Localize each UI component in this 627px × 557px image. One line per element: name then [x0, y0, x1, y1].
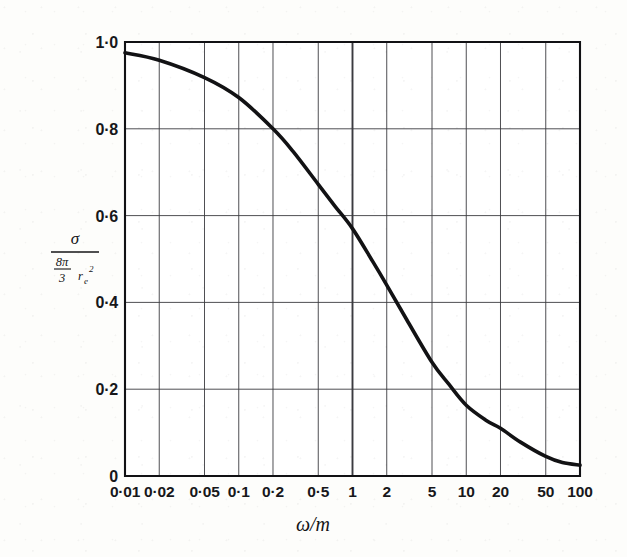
figure-canvas: 0·010·020·050·10·20·5125102050100 00·20·… [0, 0, 627, 557]
y-tick-labels: 00·20·40·60·81·0 [95, 34, 118, 485]
y-axis-denominator-numerator: 8π [56, 255, 69, 269]
x-tick-label: 10 [458, 483, 475, 500]
x-tick-label: 0·5 [307, 483, 329, 500]
y-axis-title: σ 8π 3 r e 2 [51, 229, 99, 286]
x-tick-label: 100 [567, 483, 592, 500]
x-tick-label: 0·1 [228, 483, 250, 500]
y-tick-label: 0·8 [95, 121, 118, 138]
y-tick-label: 0·4 [95, 294, 118, 311]
x-tick-label: 20 [492, 483, 509, 500]
y-tick-label: 0·2 [95, 381, 118, 398]
x-tick-label: 5 [428, 483, 437, 500]
cross-section-chart: 0·010·020·050·10·20·5125102050100 00·20·… [0, 0, 627, 557]
x-axis-title: ω/m [296, 513, 330, 535]
y-tick-label: 0 [109, 468, 118, 485]
x-tick-label: 50 [537, 483, 554, 500]
y-axis-electron-radius-symbol: r [78, 269, 83, 283]
y-axis-electron-radius-subscript: e [84, 276, 88, 286]
y-tick-label: 0·6 [95, 208, 118, 225]
x-tick-labels: 0·010·020·050·10·20·5125102050100 [110, 483, 593, 500]
x-tick-label: 0·05 [189, 483, 220, 500]
y-axis-numerator: σ [71, 229, 80, 248]
x-tick-label: 1 [348, 483, 357, 500]
y-axis-denominator-denominator: 3 [58, 271, 65, 285]
y-tick-label: 1·0 [95, 34, 118, 51]
x-tick-label: 0·01 [110, 483, 141, 500]
x-tick-label: 0·2 [262, 483, 284, 500]
x-tick-label: 0·02 [144, 483, 174, 500]
y-axis-electron-radius-exponent: 2 [89, 264, 94, 274]
x-tick-label: 2 [383, 483, 391, 500]
